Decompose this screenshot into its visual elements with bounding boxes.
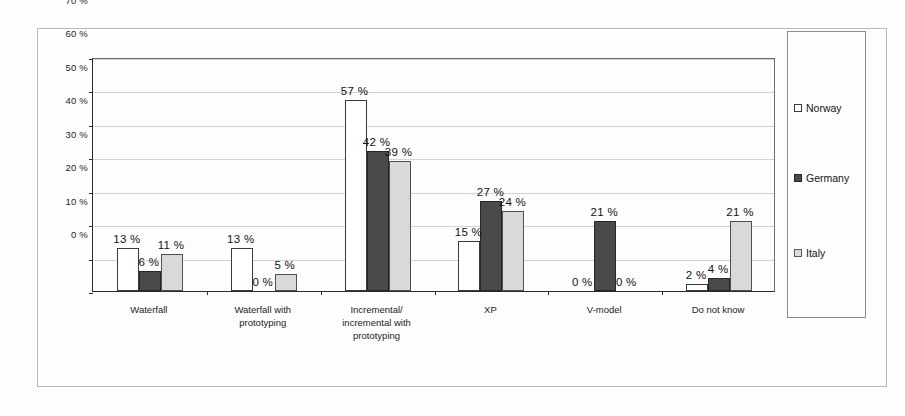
bar-italy-0[interactable] — [161, 254, 183, 291]
bar-value-label: 24 % — [499, 196, 526, 208]
x-axis-tick-mark — [321, 291, 322, 295]
y-axis-tick-label: 10 % — [42, 195, 88, 206]
bar-italy-1[interactable] — [275, 274, 297, 291]
bar-value-label: 21 % — [726, 206, 753, 218]
gridline — [93, 226, 774, 227]
gridline — [93, 159, 774, 160]
bar-value-label: 11 % — [158, 239, 185, 251]
bar-germany-0[interactable] — [139, 271, 161, 291]
plot-area — [92, 58, 775, 292]
y-axis-tick-mark — [89, 193, 93, 194]
bar-germany-2[interactable] — [367, 151, 389, 291]
x-axis-category-label: XP — [484, 303, 497, 316]
bar-value-label: 0 % — [252, 276, 273, 288]
bar-value-label: 4 % — [708, 263, 729, 275]
legend-swatch-germany-icon — [794, 174, 802, 182]
bar-value-label: 5 % — [274, 259, 295, 271]
x-axis-category-label: Do not know — [692, 303, 745, 316]
grouped-bar-chart: 0 %10 %20 %30 %40 %50 %60 %70 % NorwayGe… — [0, 0, 905, 416]
bar-norway-1[interactable] — [231, 248, 253, 291]
chart-legend: NorwayGermanyItaly — [787, 31, 866, 318]
legend-label: Italy — [806, 247, 825, 259]
y-axis-tick-mark — [89, 126, 93, 127]
bar-value-label: 13 % — [113, 233, 140, 245]
bar-norway-5[interactable] — [686, 284, 708, 291]
gridline — [93, 59, 774, 60]
bar-germany-3[interactable] — [480, 201, 502, 291]
y-axis-tick-label: 0 % — [42, 229, 88, 240]
bar-value-label: 57 % — [341, 85, 368, 97]
legend-label: Germany — [806, 172, 849, 184]
bar-value-label: 6 % — [139, 256, 160, 268]
gridline — [93, 260, 774, 261]
x-axis-tick-mark — [548, 291, 549, 295]
legend-item-italy[interactable]: Italy — [794, 247, 825, 259]
y-axis-tick-label: 30 % — [42, 128, 88, 139]
y-axis-tick-mark — [89, 59, 93, 60]
y-axis-tick-mark — [89, 92, 93, 93]
y-axis-tick-label: 70 % — [42, 0, 88, 6]
gridline — [93, 126, 774, 127]
legend-swatch-norway-icon — [794, 104, 802, 112]
bar-italy-3[interactable] — [502, 211, 524, 291]
y-axis-tick-label: 60 % — [42, 28, 88, 39]
y-axis-tick-mark — [89, 293, 93, 294]
bar-norway-0[interactable] — [117, 248, 139, 291]
y-axis-tick-label: 50 % — [42, 61, 88, 72]
gridline — [93, 193, 774, 194]
y-axis-tick-label: 20 % — [42, 162, 88, 173]
x-axis-category-label: Waterfall — [130, 303, 167, 316]
bar-value-label: 39 % — [385, 146, 412, 158]
y-axis-tick-label: 40 % — [42, 95, 88, 106]
x-axis-category-label: Waterfall with prototyping — [234, 303, 291, 329]
bar-norway-2[interactable] — [345, 100, 367, 291]
x-axis-tick-mark — [207, 291, 208, 295]
y-axis: 0 %10 %20 %30 %40 %50 %60 %70 % — [40, 0, 88, 234]
x-axis-category-label: Incremental/ incremental with prototypin… — [342, 303, 411, 342]
gridline — [93, 92, 774, 93]
bar-germany-4[interactable] — [594, 221, 616, 291]
bar-value-label: 2 % — [686, 269, 707, 281]
y-axis-tick-mark — [89, 226, 93, 227]
x-axis-category-label: V-model — [587, 303, 622, 316]
bar-value-label: 15 % — [455, 226, 482, 238]
bar-value-label: 21 % — [591, 206, 618, 218]
bar-value-label: 13 % — [227, 233, 254, 245]
y-axis-tick-mark — [89, 260, 93, 261]
legend-label: Norway — [806, 102, 842, 114]
legend-item-germany[interactable]: Germany — [794, 172, 849, 184]
legend-swatch-italy-icon — [794, 249, 802, 257]
legend-item-norway[interactable]: Norway — [794, 102, 842, 114]
bar-value-label: 0 % — [572, 276, 593, 288]
x-axis-tick-mark — [435, 291, 436, 295]
bar-italy-2[interactable] — [389, 161, 411, 291]
x-axis-tick-mark — [662, 291, 663, 295]
bar-value-label: 0 % — [616, 276, 637, 288]
y-axis-tick-mark — [89, 159, 93, 160]
bar-norway-3[interactable] — [458, 241, 480, 291]
bar-italy-5[interactable] — [730, 221, 752, 291]
bar-germany-5[interactable] — [708, 278, 730, 291]
